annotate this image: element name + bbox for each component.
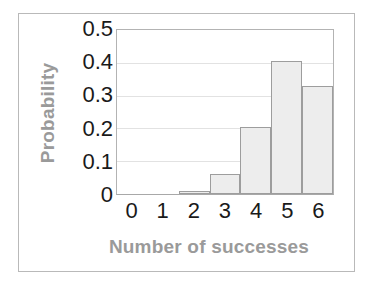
bar-slot [148,30,179,194]
bar-slot [240,30,271,194]
bar-5 [271,61,302,194]
bar-slot [117,30,148,194]
bar-slot [302,30,333,194]
y-axis-tick-labels: 0.5 0.4 0.3 0.2 0.1 0 [53,29,113,195]
bar-slot [210,30,241,194]
y-tick-label: 0.3 [82,84,113,106]
x-tick-label: 0 [116,200,147,222]
x-tick-label: 3 [209,200,240,222]
bar-4 [240,127,271,194]
bar-3 [210,174,241,194]
bar-slot [271,30,302,194]
chart-figure-frame: Probability 0.5 0.4 0.3 0.2 0.1 0 0 1 2 … [18,13,355,272]
bar-slot [179,30,210,194]
x-tick-label: 5 [272,200,303,222]
plot-area [116,29,334,195]
y-tick-label: 0.2 [82,118,113,140]
y-tick-label: 0.5 [82,18,113,40]
y-tick-label: 0 [101,184,113,206]
x-tick-label: 6 [303,200,334,222]
x-tick-label: 2 [178,200,209,222]
x-tick-label: 1 [147,200,178,222]
bar-2 [179,191,210,194]
x-axis-title: Number of successes [79,236,339,258]
y-tick-label: 0.4 [82,51,113,73]
bar-6 [302,86,333,194]
x-tick-label: 4 [241,200,272,222]
y-tick-label: 0.1 [82,151,113,173]
bar-series [117,30,333,194]
x-axis-tick-labels: 0 1 2 3 4 5 6 [116,200,334,222]
